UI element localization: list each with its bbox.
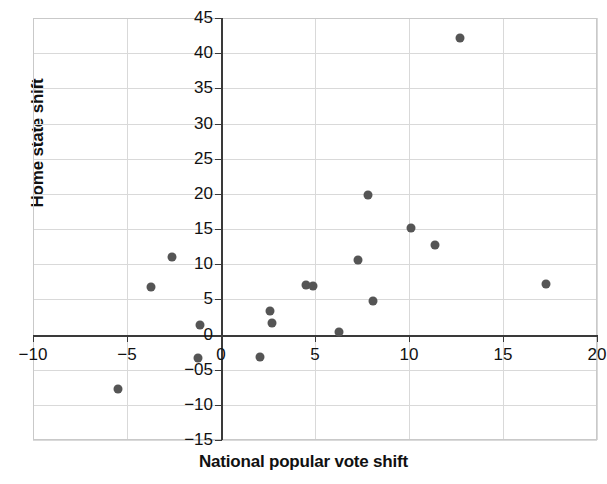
y-axis-tick [215, 370, 222, 371]
y-axis-tick [215, 264, 222, 265]
x-axis-tick [597, 335, 598, 342]
x-axis-title: National popular vote shift [0, 452, 607, 472]
y-axis-tick [215, 440, 222, 441]
y-axis-tick [215, 124, 222, 125]
data-point [309, 281, 318, 290]
y-tick-label: 45 [169, 8, 213, 28]
plot-frame-right [596, 18, 597, 440]
y-tick-label: 5 [169, 289, 213, 309]
y-tick-label: 35 [169, 78, 213, 98]
gridline-vertical [597, 18, 598, 440]
x-tick-label: 0 [216, 345, 225, 365]
y-tick-label: 0 [169, 325, 213, 345]
y-tick-label: 20 [169, 184, 213, 204]
y-axis-tick [215, 53, 222, 54]
x-tick-label: 5 [310, 345, 319, 365]
y-tick-label: 40 [169, 43, 213, 63]
data-point [265, 306, 274, 315]
gridline-vertical [503, 18, 504, 440]
y-axis-tick [215, 88, 222, 89]
gridline-vertical [127, 18, 128, 440]
x-axis-tick [409, 335, 410, 342]
data-point [431, 241, 440, 250]
y-axis-tick [215, 159, 222, 160]
y-axis-tick [215, 229, 222, 230]
data-point [147, 283, 156, 292]
x-tick-label: −5 [117, 345, 136, 365]
plot-frame-bottom [33, 439, 597, 440]
x-tick-label: 10 [400, 345, 419, 365]
x-tick-label: 20 [588, 345, 607, 365]
y-axis-tick [215, 299, 222, 300]
y-tick-label: −05 [169, 360, 213, 380]
y-tick-label: −15 [169, 430, 213, 450]
gridline-horizontal [33, 440, 597, 441]
y-tick-label: 15 [169, 219, 213, 239]
x-tick-label: 15 [494, 345, 513, 365]
plot-area [33, 18, 597, 440]
data-point [335, 328, 344, 337]
data-point [354, 255, 363, 264]
data-point [113, 384, 122, 393]
y-tick-label: −10 [169, 395, 213, 415]
y-tick-label: 25 [169, 149, 213, 169]
y-axis-tick [215, 18, 222, 19]
data-point [369, 296, 378, 305]
y-axis-tick [215, 405, 222, 406]
data-point [542, 279, 551, 288]
scatter-chart: Home state shift National popular vote s… [0, 0, 607, 484]
data-point [256, 353, 265, 362]
data-point [363, 191, 372, 200]
plot-frame-left [33, 18, 34, 440]
x-axis-tick [33, 335, 34, 342]
y-tick-label: 30 [169, 114, 213, 134]
gridline-vertical [315, 18, 316, 440]
data-point [406, 224, 415, 233]
x-tick-label: −10 [19, 345, 48, 365]
y-tick-label: 10 [169, 254, 213, 274]
x-axis-tick [503, 335, 504, 342]
data-point [267, 318, 276, 327]
x-axis-tick [127, 335, 128, 342]
x-axis-tick [315, 335, 316, 342]
y-axis-tick [215, 194, 222, 195]
data-point [455, 34, 464, 43]
plot-frame-top [33, 18, 597, 19]
